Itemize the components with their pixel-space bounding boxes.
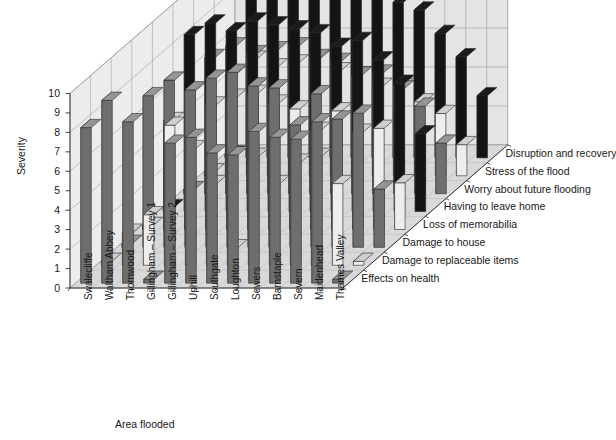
x-category-label: Southgate [210,254,220,300]
y-tick-label: 3 [38,224,60,235]
x-category-label: Severn [294,268,304,300]
y-tick-label: 10 [38,88,60,99]
series-label: Damage to replaceable items [382,255,519,266]
series-label: Effects on health [361,273,439,284]
series-label: Disruption and recovery [506,148,616,159]
y-tick-label: 2 [38,244,60,255]
x-category-label: Gillingham – Survey 2 [168,202,178,300]
series-label: Worry about future flooding [464,184,590,195]
y-tick-label: 9 [38,107,60,118]
x-category-label: Thames Valley [336,235,346,300]
x-category-label: Maidenhead [315,245,325,300]
x-category-label: Thornwood [126,250,136,300]
x-category-label: Waltham Abbey [105,230,115,300]
series-label: Stress of the flood [485,166,570,177]
x-category-label: Swalecliffe [84,252,94,300]
x-category-label: Gillingham – Survey 1 [147,202,157,300]
series-label: Having to leave home [444,201,546,212]
y-tick-label: 4 [38,205,60,216]
y-tick-label: 6 [38,166,60,177]
y-tick-label: 0 [38,283,60,294]
x-category-label: Sewers [252,267,262,300]
x-category-label: Loughton [231,258,241,300]
y-tick-label: 8 [38,127,60,138]
y-tick-label: 1 [38,263,60,274]
y-axis-title: Severity [15,121,27,191]
series-label: Loss of memorabilia [423,219,517,230]
series-label: Damage to house [403,237,486,248]
y-tick-label: 5 [38,185,60,196]
y-tick-label: 7 [38,146,60,157]
x-category-label: Barnstaple [273,252,283,300]
x-axis-title: Area flooded [115,418,175,430]
x-category-label: Uphill [189,275,199,300]
